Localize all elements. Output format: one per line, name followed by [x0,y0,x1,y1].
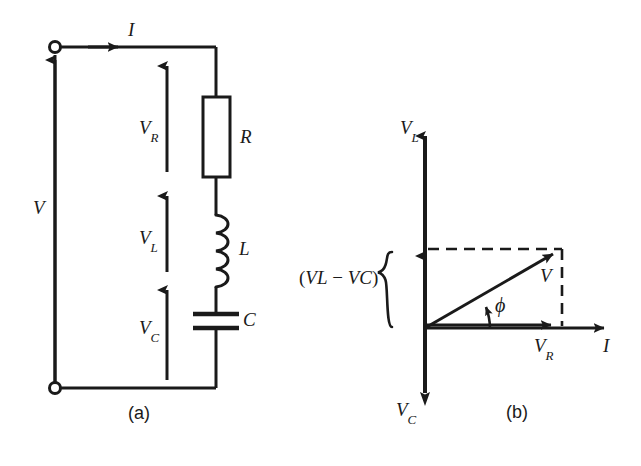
v-c-label: VC [139,318,159,341]
current-label-a: I [128,20,134,39]
v-l-label-sub: L [151,240,158,255]
v-l-label-base: V [139,227,151,248]
net-reactance-label: (VL − VC) [299,268,378,287]
v-r-label: VR [139,118,159,141]
net-reactance-a-base: V [305,267,317,288]
net-reactance-paren-close: ) [372,267,378,288]
net-reactance-minus: − [332,267,343,288]
capacitor-label: C [243,310,256,329]
vl-axis-label: VL [400,118,419,141]
panel-b-caption: (b) [506,403,528,421]
bottom-terminal-node [50,383,61,394]
net-reactance-b-base: V [348,267,360,288]
vr-phasor-label-base: V [534,335,546,356]
v-c-label-sub: C [151,330,160,345]
source-voltage-label: V [33,198,45,217]
vc-axis-label: VC [396,400,416,423]
v-r-label-sub: R [151,130,159,145]
vr-phasor-label-sub: R [546,348,554,363]
i-axis-label: I [603,336,609,355]
top-terminal-node [50,42,61,53]
v-l-label: VL [139,228,158,251]
phase-angle-label: ϕ [495,295,505,315]
resultant-v-label: V [540,266,552,285]
vc-axis-label-base: V [396,399,408,420]
vr-phasor-label: VR [534,336,554,359]
vl-axis-label-base: V [400,117,412,138]
net-reactance-b-sub: C [359,267,372,288]
vc-axis-label-sub: C [408,412,417,427]
v-r-label-base: V [139,117,151,138]
inductor-label: L [239,239,250,258]
net-reactance-a-sub: L [317,267,328,288]
resistor-symbol [203,97,230,177]
v-c-label-base: V [139,317,151,338]
rlc-series-circuit-and-phasor-figure [0,0,641,466]
figure-background [0,0,641,466]
panel-a-caption: (a) [128,404,150,422]
resistor-label: R [240,127,252,146]
vl-axis-label-sub: L [412,130,419,145]
